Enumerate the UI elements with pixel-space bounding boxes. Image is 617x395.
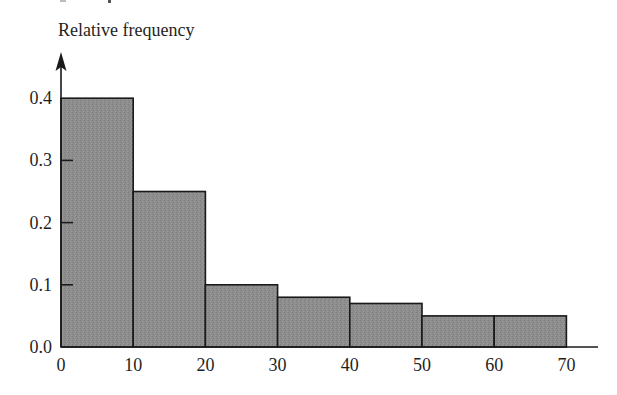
histogram-bars [61,98,566,347]
x-tick-label: 50 [413,355,431,375]
histogram-bar [278,297,350,347]
x-tick-label: 30 [269,355,287,375]
y-tick-label: 0.1 [30,275,53,295]
histogram-bar [422,316,494,347]
histogram-chart: 0.00.10.20.30.4 010203040506070 Relative… [0,0,617,395]
histogram-bar [133,192,205,348]
x-tick-label: 20 [196,355,214,375]
x-tick-label: 10 [124,355,142,375]
y-tick-label: 0.2 [30,213,53,233]
cropped-heading-fragment [60,0,111,3]
y-axis-title: Relative frequency [58,20,194,40]
histogram-bar [350,303,422,347]
y-tick-label: 0.4 [30,88,53,108]
x-tick-label: 60 [485,355,503,375]
y-tick-label: 0.0 [30,337,53,357]
histogram-bar [494,316,566,347]
y-tick-label: 0.3 [30,150,53,170]
x-tick-label: 70 [557,355,575,375]
x-tick-label: 0 [57,355,66,375]
x-tick-label: 40 [341,355,359,375]
x-axis-ticks: 010203040506070 [57,355,576,375]
histogram-bar [205,285,277,347]
